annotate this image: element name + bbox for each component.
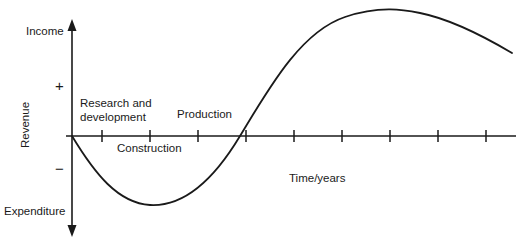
y-axis-title: Revenue: [19, 102, 32, 148]
y-axis-income-label: Income: [26, 25, 64, 38]
phase-label-research-development: Research and development: [80, 96, 152, 124]
cash-flow-chart: Income Expenditure Revenue + − Research …: [0, 0, 522, 238]
chart-canvas: [0, 0, 522, 238]
phase-label-production: Production: [177, 108, 232, 121]
y-axis-expenditure-label: Expenditure: [4, 205, 65, 218]
phase-label-research-line1: Research and: [80, 97, 152, 109]
negative-sign-label: −: [55, 161, 64, 176]
phase-label-development-line2: development: [80, 111, 146, 123]
y-axis-up-arrowhead: [68, 19, 77, 31]
phase-label-construction: Construction: [117, 142, 182, 155]
positive-sign-label: +: [55, 78, 64, 93]
x-axis-title: Time/years: [289, 172, 345, 185]
y-axis-down-arrowhead: [68, 225, 77, 237]
